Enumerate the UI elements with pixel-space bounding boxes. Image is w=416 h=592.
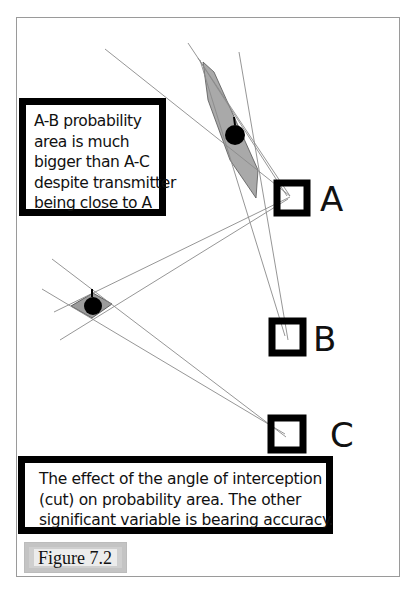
figure-label-tag: Figure 7.2 xyxy=(25,543,126,572)
note-line: A-B probability xyxy=(34,111,155,132)
note-line: despite transmitter xyxy=(34,173,155,194)
note-ab-probability: A-B probability area is much bigger than… xyxy=(19,98,166,216)
figure-label: Figure 7.2 xyxy=(38,548,112,569)
caption-line: (cut) on probability area. The other xyxy=(39,490,322,511)
station-label-c: C xyxy=(330,418,354,452)
caption-line: The effect of the angle of interception xyxy=(39,469,322,490)
caption-box: The effect of the angle of interception … xyxy=(18,456,333,534)
station-label-b: B xyxy=(313,322,336,356)
note-line: bigger than A-C xyxy=(34,152,155,173)
station-label-a: A xyxy=(320,182,343,216)
transmitter-icon-left xyxy=(84,289,102,315)
station-box-c xyxy=(271,418,303,450)
note-line: area is much xyxy=(34,132,155,153)
note-line: being close to A xyxy=(34,193,155,214)
bearing-lines-c xyxy=(42,259,286,437)
caption-line: significant variable is bearing accuracy… xyxy=(39,510,322,531)
